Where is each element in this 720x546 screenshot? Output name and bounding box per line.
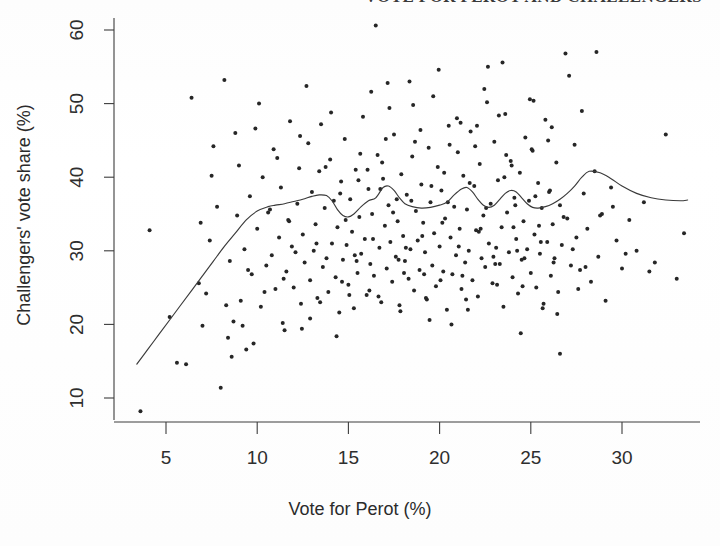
scatter-point <box>318 300 322 304</box>
scatter-point <box>615 239 619 243</box>
scatter-point <box>314 222 318 226</box>
scatter-point <box>469 130 473 134</box>
scatter-point <box>248 194 252 198</box>
scatter-point <box>414 209 418 213</box>
scatter-point <box>372 274 376 278</box>
scatter-point <box>369 90 373 94</box>
scatter-point <box>563 52 567 56</box>
scatter-point <box>210 174 214 178</box>
scatter-point <box>493 262 497 266</box>
scatter-point <box>574 236 578 240</box>
scatter-point <box>427 146 431 150</box>
scatter-point <box>560 243 564 247</box>
scatter-point <box>527 199 531 203</box>
scatter-point <box>467 249 471 253</box>
scatter-point <box>439 278 443 282</box>
scatter-point <box>323 206 327 210</box>
scatter-point <box>335 225 339 229</box>
scatter-point <box>277 236 281 240</box>
scatter-point <box>419 183 423 187</box>
scatter-point <box>224 303 228 307</box>
scatter-point <box>498 262 502 266</box>
scatter-point <box>290 244 294 248</box>
scatter-plot-figure: VOTE FOR PEROT AND CHALLENGERS 102030405… <box>0 0 720 546</box>
scatter-point <box>321 265 325 269</box>
scatter-point <box>377 294 381 298</box>
x-tick-label: 30 <box>611 447 632 468</box>
scatter-point <box>252 342 256 346</box>
scatter-point <box>567 74 571 78</box>
scatter-point <box>384 137 388 141</box>
scatter-point <box>525 247 529 251</box>
scatter-point <box>473 144 477 148</box>
scatter-point <box>235 213 239 217</box>
scatter-point <box>246 268 250 272</box>
scatter-point <box>532 233 536 237</box>
scatter-point <box>344 218 348 222</box>
scatter-point <box>440 221 444 225</box>
scatter-point <box>542 302 546 306</box>
scatter-point <box>438 244 442 248</box>
scatter-point <box>518 171 522 175</box>
scatter-point <box>215 205 219 209</box>
scatter-point <box>491 255 495 259</box>
scatter-point <box>455 116 459 120</box>
scatter-point <box>230 355 234 359</box>
scatter-point <box>330 241 334 245</box>
scatter-point <box>253 127 257 131</box>
scatter-point <box>571 247 575 251</box>
scatter-point <box>450 272 454 276</box>
scatter-point <box>294 250 298 254</box>
scatter-point <box>480 256 484 260</box>
scatter-point <box>387 106 391 110</box>
scatter-point <box>458 227 462 231</box>
scatter-point <box>459 287 463 291</box>
scatter-point <box>424 296 428 300</box>
scatter-point <box>447 124 451 128</box>
scatter-point <box>326 290 330 294</box>
scatter-point <box>647 269 651 273</box>
scatter-point <box>456 150 460 154</box>
scatter-point <box>539 240 543 244</box>
scatter-point <box>556 290 560 294</box>
scatter-point <box>423 250 427 254</box>
scatter-point <box>340 280 344 284</box>
scatter-point <box>472 184 476 188</box>
scatter-point <box>281 321 285 325</box>
scatter-point <box>338 191 342 195</box>
scatter-point <box>301 233 305 237</box>
scatter-point <box>409 199 413 203</box>
scatter-point <box>190 96 194 100</box>
scatter-point <box>270 253 274 257</box>
scatter-point <box>354 168 358 172</box>
scatter-point <box>396 219 400 223</box>
y-tick-label: 20 <box>66 314 87 335</box>
y-tick-label: 30 <box>66 240 87 261</box>
scatter-point <box>589 280 593 284</box>
x-tick-label: 25 <box>520 447 541 468</box>
scatter-point <box>516 291 520 295</box>
scatter-point <box>237 163 241 167</box>
scatter-point <box>402 271 406 275</box>
scatter-point <box>437 68 441 72</box>
scatter-point <box>371 237 375 241</box>
scatter-point <box>275 156 279 160</box>
scatter-point <box>580 109 584 113</box>
scatter-point <box>620 266 624 270</box>
scatter-point <box>413 140 417 144</box>
scatter-point <box>334 275 338 279</box>
scatter-point <box>279 186 283 190</box>
scatter-point <box>287 219 291 223</box>
scatter-point <box>387 203 391 207</box>
scatter-point <box>257 102 261 106</box>
scatter-point <box>388 240 392 244</box>
scatter-point <box>611 205 615 209</box>
scatter-point <box>543 118 547 122</box>
scatter-point <box>366 187 370 191</box>
scatter-point <box>555 312 559 316</box>
scatter-point <box>255 227 259 231</box>
scatter-point <box>261 175 265 179</box>
scatter-point <box>479 227 483 231</box>
scatter-point <box>263 290 267 294</box>
scatter-point <box>549 274 553 278</box>
